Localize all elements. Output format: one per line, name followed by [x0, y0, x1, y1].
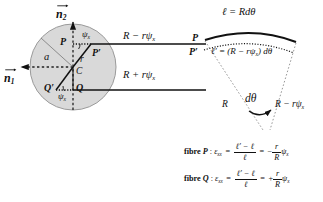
label-arc-point-P: P [192, 33, 198, 43]
label-point-Q-prime: Q′ [44, 83, 54, 93]
vector-arrow-n2-icon [55, 4, 71, 8]
eq1-fraction-2: rR [272, 143, 281, 162]
label-point-P-prime: P′ [92, 48, 101, 58]
eq2-frac1-numerator: ℓ′ − ℓ [235, 170, 257, 180]
eq2-trailing-subscript: x [287, 178, 289, 184]
label-upper-fibre-length: R − rψx [123, 31, 155, 42]
vector-n2-subscript: 2 [63, 13, 67, 22]
arc-right-radius-expr: R − rψ [275, 99, 302, 109]
eq1-prefix: fibre [184, 147, 203, 156]
vector-arrow-n1-icon [3, 68, 19, 72]
arc-right-radius-subscript: x [302, 104, 305, 110]
eq1-frac1-numerator: ℓ′ − ℓ [234, 143, 256, 153]
inner-arc-tail: ) dθ [258, 46, 272, 56]
label-lower-fibre-length: R + rψx [123, 70, 155, 81]
eq1-equals-2: = [256, 147, 268, 156]
eq1-equals-1: = [222, 147, 234, 156]
label-radius-a: a [44, 52, 49, 63]
label-point-Q: Q [76, 83, 83, 93]
label-center-C: C [76, 67, 82, 77]
inner-arc-paren: (R − rψ [227, 46, 255, 56]
eq2-fraction-2: rR [273, 170, 282, 189]
label-psi-top: ψx [82, 30, 90, 40]
figure-canvas: n2 n1 P ψx P′ r a C Q′ Q ψx R − rψx R + … [0, 0, 323, 202]
lower-fibre-subscript: x [152, 74, 155, 81]
label-vector-n2: n2 [56, 8, 66, 22]
label-radius-r: r [80, 55, 84, 65]
label-arc-right-radius: R − rψx [275, 100, 304, 111]
upper-fibre-expr: R − rψ [123, 30, 152, 41]
eq1-frac1-denominator: ℓ [234, 153, 256, 162]
psi-top-subscript: x [88, 34, 90, 40]
eq2-equals-2: = [257, 174, 269, 183]
outer-arc [205, 33, 296, 42]
eq2-prefix: fibre [184, 174, 203, 183]
label-dtheta: dθ [245, 93, 256, 105]
eq2-equals-1: = [223, 174, 235, 183]
eq2-frac1-denominator: ℓ [235, 180, 257, 189]
psi-bottom-subscript: x [64, 96, 66, 102]
lower-fibre-expr: R + rψ [123, 69, 152, 80]
label-point-P: P [60, 37, 66, 47]
inner-arc-lhs: ℓ′ = [211, 46, 227, 56]
label-outer-arc-length: ℓ = Rdθ [222, 7, 256, 18]
eq1-frac2-numerator: r [272, 143, 281, 153]
upper-fibre-subscript: x [152, 35, 155, 42]
eq1-frac2-denominator: R [272, 153, 281, 162]
eq1-trailing-subscript: x [286, 151, 288, 157]
equation-fibre-P: fibre P : εxx = ℓ′ − ℓℓ = −rRψx [184, 143, 289, 162]
eq2-frac2-denominator: R [273, 180, 282, 189]
sector-right-radius [270, 43, 296, 130]
label-vector-n1: n1 [4, 72, 14, 86]
equation-fibre-Q: fibre Q : εxx = ℓ′ − ℓℓ = +rRψx [184, 170, 289, 189]
label-inner-arc-length: ℓ′ = (R − rψx) dθ [211, 47, 272, 57]
eq2-fraction-1: ℓ′ − ℓℓ [235, 170, 257, 189]
label-psi-bottom: ψx [58, 92, 66, 102]
label-arc-point-P-prime: P′ [189, 47, 198, 57]
eq1-fraction-1: ℓ′ − ℓℓ [234, 143, 256, 162]
vector-n2-symbol: n [56, 7, 63, 21]
eq2-frac2-numerator: r [273, 170, 282, 180]
vector-n1-subscript: 1 [11, 77, 15, 86]
label-arc-radius-R: R [222, 100, 228, 110]
vector-n1-symbol: n [4, 71, 11, 85]
